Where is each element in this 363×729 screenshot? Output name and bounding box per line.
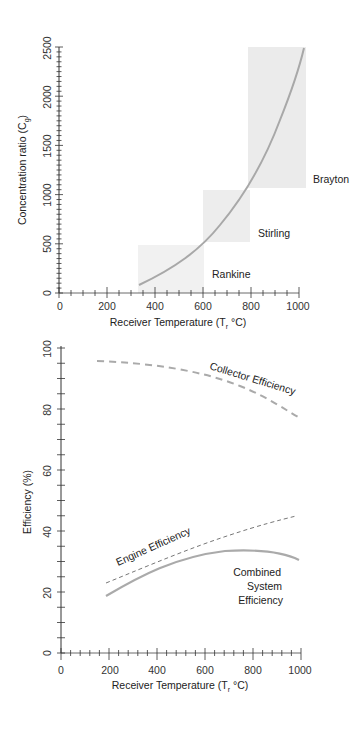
svg-text:0: 0	[58, 664, 64, 676]
svg-text:2500: 2500	[41, 36, 53, 60]
combined-efficiency-label-1: Combined	[233, 566, 281, 578]
combined-efficiency-label-3: Efficiency	[238, 594, 283, 606]
svg-text:1000: 1000	[288, 664, 312, 676]
svg-text:800: 800	[242, 300, 260, 312]
top-x-axis-label: Receiver Temperature (Tr °C)	[110, 316, 246, 330]
efficiency-chart: 0 200 400 600 800 1000 0 20 40 60 80 100…	[21, 340, 312, 693]
combined-efficiency-label-2: System	[247, 580, 282, 592]
svg-text:400: 400	[146, 300, 164, 312]
bottom-y-axis-label: Efficiency (%)	[21, 470, 33, 534]
bottom-x-axis-label: Receiver Temperature (Tr °C)	[112, 679, 248, 693]
stirling-label: Stirling	[258, 227, 290, 239]
svg-text:200: 200	[98, 300, 116, 312]
brayton-label: Brayton	[313, 173, 349, 185]
svg-text:40: 40	[41, 526, 53, 538]
figure: 0 200 400 600 800 1000 0 500 1000 1500 2…	[0, 0, 363, 729]
svg-text:100: 100	[41, 340, 53, 358]
svg-text:1500: 1500	[41, 134, 53, 158]
svg-text:60: 60	[41, 465, 53, 477]
top-y-axis-label: Concentration ratio (Cg)	[16, 115, 31, 225]
rankine-label: Rankine	[212, 268, 251, 280]
brayton-region	[248, 47, 306, 188]
svg-text:0: 0	[41, 290, 53, 296]
svg-text:600: 600	[194, 300, 212, 312]
svg-text:0: 0	[41, 650, 53, 656]
svg-text:400: 400	[148, 664, 166, 676]
svg-text:600: 600	[196, 664, 214, 676]
svg-text:1000: 1000	[286, 300, 310, 312]
svg-text:20: 20	[41, 587, 53, 599]
svg-text:0: 0	[57, 300, 63, 312]
svg-text:80: 80	[41, 404, 53, 416]
svg-text:200: 200	[101, 664, 119, 676]
svg-text:1000: 1000	[41, 183, 53, 207]
svg-text:500: 500	[41, 235, 53, 253]
svg-text:2000: 2000	[41, 85, 53, 109]
concentration-chart: 0 200 400 600 800 1000 0 500 1000 1500 2…	[16, 36, 349, 330]
svg-text:800: 800	[244, 664, 262, 676]
